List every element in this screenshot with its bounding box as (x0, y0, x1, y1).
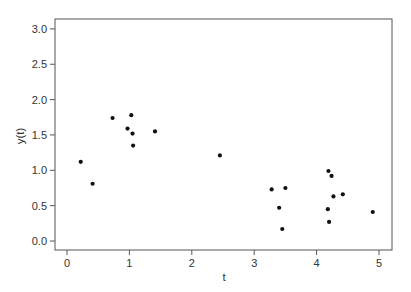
y-tick-label: 1.5 (32, 129, 47, 141)
data-point (125, 126, 129, 130)
y-axis: 0.00.51.01.52.02.53.0 (32, 23, 55, 247)
y-tick-label: 2.0 (32, 94, 47, 106)
y-tick-label: 0.5 (32, 200, 47, 212)
x-tick-label: 1 (126, 257, 132, 269)
data-point (153, 129, 157, 133)
y-axis-label: y(t) (14, 128, 26, 145)
x-tick-label: 0 (64, 257, 70, 269)
data-point (130, 131, 134, 135)
data-point (326, 207, 330, 211)
data-point (110, 116, 114, 120)
data-point (131, 143, 135, 147)
data-point (129, 113, 133, 117)
scatter-chart: 012345 0.00.51.01.52.02.53.0 t y(t) (0, 0, 411, 292)
y-tick-label: 0.0 (32, 235, 47, 247)
x-tick-label: 3 (251, 257, 257, 269)
y-tick-label: 1.0 (32, 164, 47, 176)
x-tick-label: 2 (189, 257, 195, 269)
data-point (270, 187, 274, 191)
data-point (326, 169, 330, 173)
plot-area (55, 19, 392, 250)
data-point (90, 182, 94, 186)
data-point (277, 206, 281, 210)
data-point (327, 220, 331, 224)
x-tick-label: 4 (314, 257, 320, 269)
data-point (283, 186, 287, 190)
x-axis-label: t (222, 271, 226, 283)
y-tick-label: 3.0 (32, 23, 47, 35)
data-point (280, 227, 284, 231)
x-axis: 012345 (64, 250, 382, 269)
data-point (331, 194, 335, 198)
data-point (371, 210, 375, 214)
x-tick-label: 5 (376, 257, 382, 269)
y-tick-label: 2.5 (32, 58, 47, 70)
data-point (218, 153, 222, 157)
data-point (79, 160, 83, 164)
data-point (341, 192, 345, 196)
data-point (329, 174, 333, 178)
